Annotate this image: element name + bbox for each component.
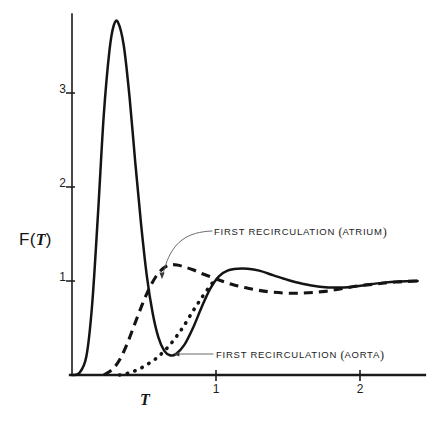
y-axis-title-function: F <box>19 230 30 249</box>
annotation-aorta-target: AORTA <box>344 349 380 360</box>
y-tick-label-1: 1 <box>50 271 66 283</box>
annotation-atrium-prefix: FIRST RECIRCULATION <box>214 226 335 237</box>
leader-arrowhead-atrium <box>159 273 164 279</box>
axes-group <box>70 14 425 375</box>
curve-primary-dilution <box>72 21 418 375</box>
annotation-atrium-paren-close: ) <box>383 225 387 239</box>
y-tick-marks <box>66 93 75 281</box>
y-axis-title-variable: T <box>36 231 46 248</box>
x-axis-title: T <box>140 392 150 408</box>
y-axis-title: F(T) <box>19 231 52 248</box>
y-tick-label-2: 2 <box>50 177 66 189</box>
x-tick-label-1: 1 <box>208 383 224 395</box>
annotation-first-recirculation-aorta: FIRST RECIRCULATION (AORTA) <box>216 349 384 361</box>
annotation-first-recirculation-atrium: FIRST RECIRCULATION (ATRIUM) <box>214 226 387 238</box>
y-tick-label-3: 3 <box>50 83 66 95</box>
leader-line-atrium <box>162 231 212 277</box>
annotation-aorta-prefix: FIRST RECIRCULATION <box>216 349 337 360</box>
annotation-aorta-paren-close: ) <box>380 348 384 362</box>
annotation-atrium-target: ATRIUM <box>342 226 382 237</box>
figure-container: 1 2 3 1 2 F(T) T FIRST RECIRCULATION (AT… <box>0 0 431 422</box>
curve-first-recirculation-aorta <box>120 279 216 375</box>
x-tick-label-2: 2 <box>352 383 368 395</box>
